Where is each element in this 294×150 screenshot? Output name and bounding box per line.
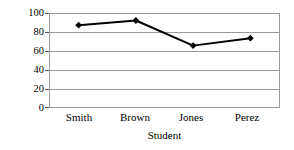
data-point-brown bbox=[132, 17, 139, 24]
data-point-perez bbox=[247, 35, 254, 42]
data-point-smith bbox=[75, 22, 82, 29]
y-tick-label-60: 60 bbox=[22, 46, 44, 56]
line-chart: Score 100 80 60 40 20 0 Smith Brown Jone… bbox=[0, 0, 294, 150]
y-tick-label-80: 80 bbox=[22, 27, 44, 37]
x-tick-label-smith: Smith bbox=[50, 110, 108, 124]
y-tick-label-100: 100 bbox=[22, 8, 44, 18]
data-point-jones bbox=[190, 42, 197, 49]
x-axis-tick-labels: Smith Brown Jones Perez bbox=[49, 110, 280, 126]
series-score bbox=[50, 14, 279, 107]
x-tick-label-brown: Brown bbox=[106, 110, 164, 124]
series-line bbox=[79, 21, 251, 46]
x-tick-label-jones: Jones bbox=[162, 110, 220, 124]
y-tick-label-40: 40 bbox=[22, 65, 44, 75]
y-tick-label-20: 20 bbox=[22, 84, 44, 94]
y-axis-tick-labels: 100 80 60 40 20 0 bbox=[22, 0, 44, 150]
x-axis-title: Student bbox=[49, 128, 280, 142]
x-tick-label-perez: Perez bbox=[218, 110, 276, 124]
plot-area bbox=[49, 13, 280, 108]
y-tick-label-0: 0 bbox=[22, 103, 44, 113]
